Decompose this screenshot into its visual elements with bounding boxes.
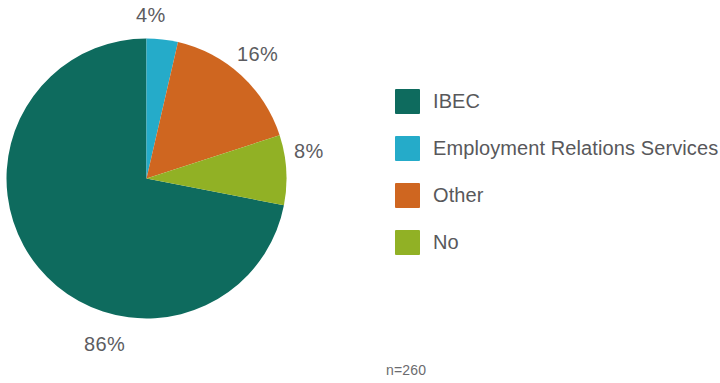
- legend-swatch-icon-ibec: [395, 89, 420, 114]
- legend-swatch-icon-no: [395, 230, 420, 255]
- pie-chart-figure: 4% 16% 8% 86% IBEC Employment Relations …: [0, 0, 720, 383]
- slice-value-label-ibec: 86%: [84, 334, 125, 354]
- legend-label-no: No: [433, 232, 459, 252]
- legend-item-employment-relations-services: Employment Relations Services: [395, 135, 720, 161]
- slice-value-label-no: 8%: [294, 141, 324, 161]
- legend-label-other: Other: [433, 185, 484, 205]
- slice-value-label-employment-relations-services: 4%: [136, 5, 166, 25]
- pie-svg: [6, 38, 287, 319]
- legend-label-employment-relations-services: Employment Relations Services: [433, 138, 718, 158]
- pie-chart-graphic: [6, 38, 287, 319]
- sample-size-note: n=260: [386, 363, 426, 377]
- legend-item-no: No: [395, 229, 720, 255]
- pie-slice-group: [7, 39, 287, 319]
- legend-swatch-icon-employment-relations-services: [395, 136, 420, 161]
- legend-item-ibec: IBEC: [395, 88, 720, 114]
- legend-label-ibec: IBEC: [433, 91, 480, 111]
- legend-swatch-icon-other: [395, 183, 420, 208]
- legend: IBEC Employment Relations Services Other…: [395, 88, 720, 255]
- slice-value-label-other: 16%: [237, 44, 278, 64]
- legend-item-other: Other: [395, 182, 720, 208]
